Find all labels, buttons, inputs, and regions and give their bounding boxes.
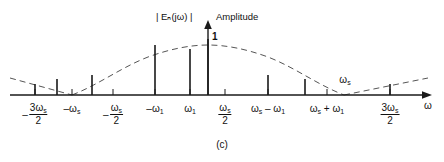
fraction-denominator: 2	[218, 115, 231, 126]
omega-subscript: 1	[340, 108, 344, 115]
fraction-numerator: ωs	[218, 103, 231, 115]
omega-subscript: 1	[192, 108, 196, 115]
fraction-denominator: 2	[381, 115, 400, 126]
peak-value-label: 1	[212, 32, 218, 42]
spectrum-plot	[0, 0, 444, 162]
tick-label--w1: –ω1	[146, 104, 163, 114]
omega-s-plus-omega-1: ωs + ω1	[310, 103, 344, 114]
fraction-denominator: 2	[110, 115, 123, 126]
omega-subscript: s	[318, 108, 322, 115]
omega-1: ω1	[184, 103, 196, 114]
tick-label-ws-2: ωs2	[218, 103, 231, 126]
omega-axis-label: ω	[424, 101, 432, 111]
envelope-dashed-curve	[10, 45, 428, 95]
tick-label--ws-2: –ωs2	[103, 103, 123, 126]
omega-subscript: 1	[160, 108, 164, 115]
tick-label--ws: –ωs	[64, 104, 81, 114]
omega-subscript: s	[43, 107, 47, 114]
omega-subscript: 1	[281, 108, 285, 115]
fraction-numerator: 3ωs	[29, 103, 48, 115]
omega-subscript: s	[395, 107, 399, 114]
fraction-numerator: 3ωs	[381, 103, 400, 115]
figure-caption: (c)	[0, 140, 444, 150]
tick-label--3ws-2: –3ωs2	[22, 103, 47, 126]
amplitude-axis-label: Amplitude	[216, 12, 258, 22]
omega-s-zero-symbol: ω	[339, 74, 347, 85]
fraction: ωs2	[218, 103, 231, 126]
envelope-right-outer	[344, 78, 428, 95]
omega-s-minus-omega-1: ωs – ω1	[251, 103, 285, 114]
envelope-magnitude-label: | Eₙ(jω) |	[156, 12, 192, 22]
minus-omega-s: –ωs	[64, 103, 81, 114]
amplitude-axis	[204, 20, 212, 95]
spectrum-figure: | Eₙ(jω) | Amplitude 1 ωs ω –3ωs2 –ωs –ω…	[0, 0, 444, 162]
fraction: 3ωs2	[381, 103, 400, 126]
omega-subscript: s	[259, 108, 263, 115]
envelope-left-outer	[10, 78, 72, 95]
fraction: 3ωs2	[29, 103, 48, 126]
tick-label-ws-plus-w1: ωs + ω1	[310, 104, 344, 114]
fraction: ωs2	[110, 103, 123, 126]
minus-omega-1: –ω1	[146, 103, 163, 114]
omega-axis-arrowhead	[422, 91, 432, 99]
fraction-numerator: ωs	[110, 103, 123, 115]
omega-subscript: s	[118, 107, 122, 114]
tick-label-ws-minus-w1: ωs – ω1	[251, 104, 285, 114]
omega-subscript: s	[227, 107, 231, 114]
tick-label-3ws-2: 3ωs2	[381, 103, 400, 126]
omega-s-zero-subscript: s	[347, 79, 351, 86]
omega-s-zero-label: ωs	[339, 75, 350, 85]
amplitude-axis-arrowhead	[204, 20, 212, 29]
omega-subscript: s	[77, 108, 81, 115]
omega-axis	[10, 91, 432, 99]
fraction-denominator: 2	[29, 115, 48, 126]
impulse-lines	[35, 39, 390, 95]
tick-label-w1: ω1	[184, 104, 196, 114]
